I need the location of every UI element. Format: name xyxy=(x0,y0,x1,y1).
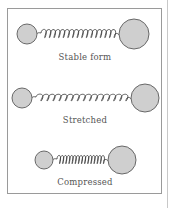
label-stable-form: Stable form xyxy=(0,52,170,62)
panel-stretched xyxy=(12,84,159,112)
label-compressed: Compressed xyxy=(0,177,170,187)
spring-diagram: Stable form Stretched Compressed xyxy=(0,0,170,208)
panel-compressed xyxy=(35,146,136,174)
large-ball-icon xyxy=(108,146,136,174)
spring-icon xyxy=(53,155,108,163)
label-stretched: Stretched xyxy=(0,115,170,125)
spring-icon xyxy=(32,94,131,101)
panel-stable xyxy=(17,19,149,49)
small-ball-icon xyxy=(12,88,32,108)
large-ball-icon xyxy=(131,84,159,112)
large-ball-icon xyxy=(119,19,149,49)
spring-icon xyxy=(37,29,119,37)
small-ball-icon xyxy=(35,151,53,169)
small-ball-icon xyxy=(17,24,37,44)
